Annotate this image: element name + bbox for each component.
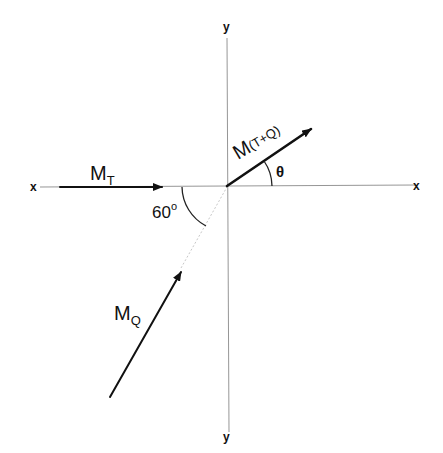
- y-axis: [227, 38, 229, 432]
- angle-arc-theta: [264, 161, 272, 186]
- y-axis-label-top: y: [223, 20, 230, 34]
- angle-arc-60: [182, 187, 206, 226]
- angle-60-label: 60o: [152, 200, 177, 222]
- angle-theta-label: θ: [276, 163, 284, 180]
- x-axis-label-right: x: [413, 179, 420, 193]
- vector-MQ-extension: [181, 187, 227, 268]
- y-axis-label-bottom: y: [223, 430, 230, 444]
- vector-diagram: x x y y MT MQ M(T+Q) 60o θ: [0, 0, 443, 453]
- vector-MQ-label: MQ: [114, 302, 141, 328]
- x-axis-label-left: x: [30, 180, 37, 194]
- vector-MTQ-label: M(T+Q): [229, 118, 284, 163]
- vector-MQ: [110, 272, 181, 397]
- vector-MT-label: MT: [90, 162, 115, 188]
